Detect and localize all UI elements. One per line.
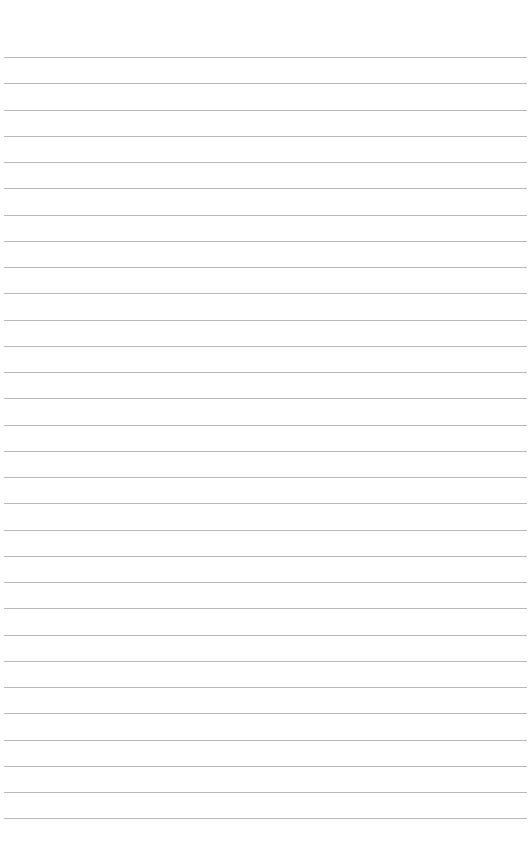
ruled-line <box>4 83 527 84</box>
ruled-line <box>4 136 527 137</box>
ruled-line <box>4 818 527 819</box>
ruled-line <box>4 372 527 373</box>
ruled-line <box>4 556 527 557</box>
ruled-line <box>4 188 527 189</box>
ruled-line <box>4 503 527 504</box>
ruled-line <box>4 110 527 111</box>
ruled-line <box>4 215 527 216</box>
ruled-line <box>4 398 527 399</box>
ruled-line <box>4 267 527 268</box>
ruled-line <box>4 346 527 347</box>
ruled-line <box>4 687 527 688</box>
ruled-line <box>4 792 527 793</box>
lined-paper-page <box>0 0 529 865</box>
ruled-line <box>4 608 527 609</box>
ruled-line <box>4 451 527 452</box>
ruled-line <box>4 425 527 426</box>
ruled-line <box>4 162 527 163</box>
ruled-line <box>4 713 527 714</box>
ruled-line <box>4 635 527 636</box>
ruled-line <box>4 661 527 662</box>
ruled-line <box>4 293 527 294</box>
ruled-line <box>4 740 527 741</box>
ruled-line <box>4 582 527 583</box>
ruled-line <box>4 766 527 767</box>
ruled-line <box>4 477 527 478</box>
ruled-line <box>4 241 527 242</box>
ruled-line <box>4 530 527 531</box>
ruled-line <box>4 57 527 58</box>
ruled-line <box>4 320 527 321</box>
